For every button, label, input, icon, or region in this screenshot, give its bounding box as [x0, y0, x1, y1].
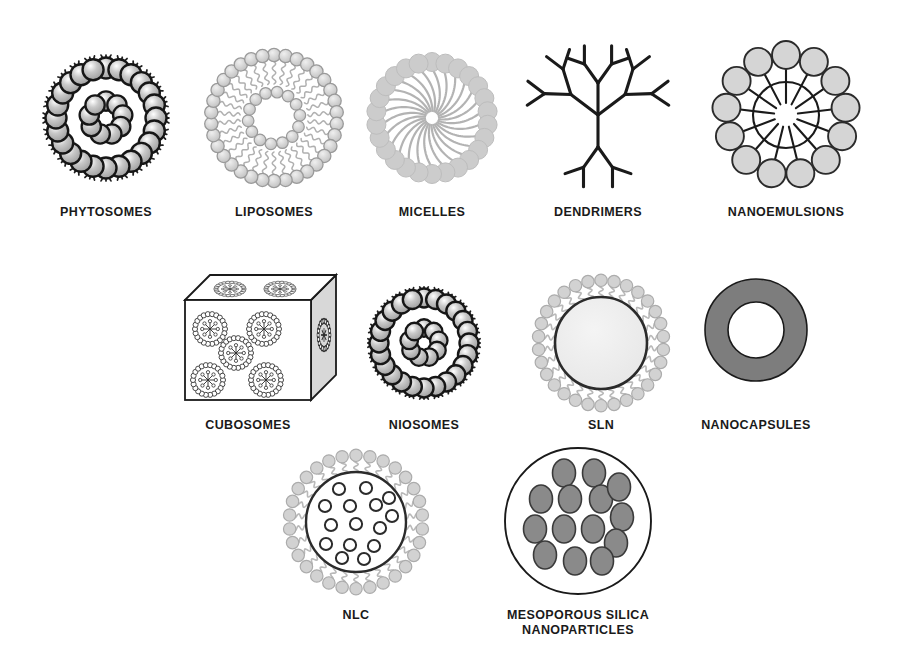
structure-nanocapsules — [705, 279, 807, 381]
niosomes-outer-shell — [368, 287, 480, 399]
liposomes-outer-leaflet — [205, 48, 344, 187]
structure-phytosomes — [43, 55, 169, 181]
nanocarrier-figure: PHYTOSOMES LIPOSOMES MICELLES DENDRIMERS… — [0, 0, 908, 669]
liposomes-inner-leaflet — [242, 86, 305, 149]
nanoemulsions-oil-droplets — [712, 41, 859, 187]
label-niosomes: NIOSOMES — [389, 418, 460, 433]
structure-nanoemulsions — [712, 41, 859, 187]
label-micelles: MICELLES — [399, 205, 465, 220]
dendrimers-branch-tree — [527, 46, 669, 187]
structure-mesoporous-silica — [505, 448, 651, 594]
structure-liposomes — [205, 48, 344, 187]
micelles-polar-heads — [367, 53, 497, 184]
nanocarrier-diagram-canvas — [0, 0, 908, 669]
label-nanoemulsions: NANOEMULSIONS — [728, 205, 844, 220]
label-nanocapsules: NANOCAPSULES — [701, 418, 811, 433]
label-mesoporous-silica: MESOPOROUS SILICA NANOPARTICLES — [507, 608, 649, 638]
sln-solid-lipid-core — [555, 297, 647, 389]
structure-cubosomes — [185, 275, 336, 400]
cubosomes-top-face — [185, 275, 336, 300]
liposomes-lipid-tails — [218, 62, 330, 175]
label-cubosomes: CUBOSOMES — [205, 418, 291, 433]
structure-sln — [532, 274, 669, 412]
structure-micelles — [367, 53, 497, 184]
label-liposomes: LIPOSOMES — [235, 205, 313, 220]
niosomes-inner-cluster — [400, 319, 447, 366]
structure-niosomes — [368, 287, 480, 399]
label-sln: SLN — [588, 418, 614, 433]
structure-dendrimers — [527, 46, 669, 187]
structure-nlc — [283, 449, 428, 595]
phytosomes-outer-shell — [43, 55, 169, 181]
label-nlc: NLC — [343, 608, 370, 623]
label-phytosomes: PHYTOSOMES — [60, 205, 152, 220]
nanocapsules-polymer-shell — [705, 279, 807, 381]
phytosomes-inner-cluster — [80, 91, 133, 143]
label-dendrimers: DENDRIMERS — [554, 205, 642, 220]
